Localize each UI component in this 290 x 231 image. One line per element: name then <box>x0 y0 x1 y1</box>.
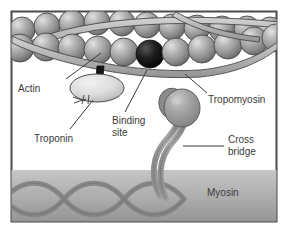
label-binding-site-line1: Binding <box>112 115 145 126</box>
actin-bead <box>162 38 190 66</box>
actin-bead <box>188 35 216 63</box>
label-myosin: Myosin <box>207 187 239 198</box>
label-cross-bridge-line1: Cross <box>228 134 254 145</box>
label-actin: Actin <box>18 83 40 94</box>
actin-bead <box>110 38 138 66</box>
muscle-filament-diagram: Actin Troponin Binding site Tropomyosin … <box>0 0 290 231</box>
myosin-head <box>164 89 200 127</box>
binding-site-bead <box>136 40 164 68</box>
troponin-body <box>70 74 124 102</box>
diagram-canvas: Actin Troponin Binding site Tropomyosin … <box>0 0 290 231</box>
label-tropomyosin: Tropomyosin <box>208 94 265 105</box>
label-troponin: Troponin <box>34 133 73 144</box>
label-binding-site-line2: site <box>112 127 128 138</box>
label-cross-bridge-line2: bridge <box>228 146 256 157</box>
myosin-head-highlight <box>171 97 181 105</box>
